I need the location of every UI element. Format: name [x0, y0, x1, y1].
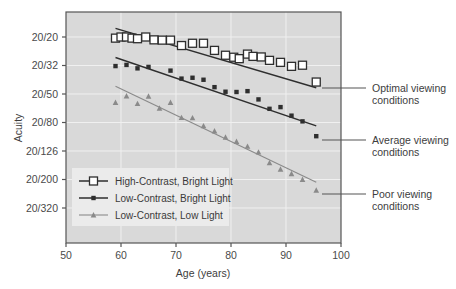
data-point [249, 52, 257, 60]
data-point [278, 105, 282, 109]
y-tick-label: 20/50 [32, 88, 58, 100]
data-point [179, 76, 183, 80]
y-tick-label: 20/200 [26, 173, 58, 185]
data-point [300, 119, 304, 123]
data-point [200, 39, 208, 47]
x-tick-label: 100 [332, 249, 350, 261]
x-axis-ticks [66, 243, 341, 247]
y-axis-tick-labels: 20/2020/3220/5020/8020/12620/20020/320 [26, 31, 58, 214]
x-tick-label: 90 [280, 249, 292, 261]
annotation-poor-line1: Poor viewing [372, 188, 432, 200]
data-point [134, 35, 142, 43]
x-axis-title: Age (years) [176, 267, 230, 279]
annotation-optimal-line2: conditions [372, 94, 419, 106]
annotation-optimal-line1: Optimal viewing [372, 82, 446, 94]
data-point [201, 78, 205, 82]
data-point [299, 61, 307, 69]
data-point [222, 51, 230, 59]
x-tick-label: 60 [115, 249, 127, 261]
data-point [288, 62, 296, 70]
annotation-average-line2: conditions [372, 146, 419, 158]
legend-label: Low-Contrast, Low Light [115, 210, 223, 221]
chart-legend: High-Contrast, Bright LightLow-Contrast,… [72, 168, 233, 226]
data-point [124, 63, 128, 67]
annotation-labels: Optimal viewingconditionsAverage viewing… [372, 82, 449, 212]
y-tick-label: 20/20 [32, 31, 58, 43]
data-point [266, 56, 274, 64]
data-point [167, 36, 175, 44]
data-point [234, 90, 238, 94]
chart-canvas: 20/2020/3220/5020/8020/12620/20020/320 5… [0, 0, 456, 289]
data-point [91, 196, 95, 200]
y-tick-label: 20/320 [26, 202, 58, 214]
data-point [223, 90, 227, 94]
data-point [190, 76, 194, 80]
legend-label: Low-Contrast, Bright Light [115, 193, 231, 204]
y-tick-label: 20/126 [26, 145, 58, 157]
x-tick-label: 80 [225, 249, 237, 261]
data-point [245, 89, 249, 93]
acuity-vs-age-figure: 20/2020/3220/5020/8020/12620/20020/320 5… [0, 0, 456, 289]
data-point [277, 58, 285, 66]
x-axis-tick-labels: 5060708090100 [60, 249, 350, 261]
y-tick-label: 20/32 [32, 59, 58, 71]
data-point [212, 85, 216, 89]
data-point [189, 39, 197, 47]
y-axis-title: Acuity [12, 113, 24, 142]
x-tick-label: 70 [170, 249, 182, 261]
data-point [146, 65, 150, 69]
data-point [90, 177, 98, 185]
data-point [267, 107, 271, 111]
data-point [256, 97, 260, 101]
data-point [135, 66, 139, 70]
data-point [178, 42, 186, 50]
data-point [211, 46, 219, 54]
data-point [289, 113, 293, 117]
data-point [158, 36, 166, 44]
legend-label: High-Contrast, Bright Light [115, 176, 233, 187]
x-tick-label: 50 [60, 249, 72, 261]
data-point [142, 33, 150, 41]
annotation-poor-line2: conditions [372, 200, 419, 212]
y-tick-label: 20/80 [32, 116, 58, 128]
data-point [235, 55, 243, 63]
data-point [257, 53, 265, 61]
data-point [113, 64, 117, 68]
annotation-average-line1: Average viewing [372, 134, 449, 146]
data-point [312, 78, 320, 86]
data-point [168, 68, 172, 72]
data-point [150, 36, 158, 44]
data-point [314, 134, 318, 138]
